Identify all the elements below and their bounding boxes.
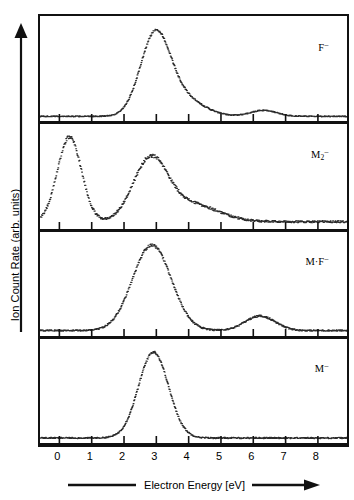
panel-f-minus-label: F− (318, 40, 329, 53)
x-tick-label: 8 (313, 450, 319, 462)
x-tick-label: 1 (87, 450, 93, 462)
x-axis-title-text: Electron Energy [eV] (138, 479, 251, 491)
panel-x-ticks (40, 436, 347, 445)
panel-m2-minus-label: M2− (311, 147, 329, 162)
x-tick-label: 4 (184, 450, 190, 462)
panel-m-minus-label: M− (315, 361, 329, 374)
plot-frame: F− M2− M·F− M− (38, 14, 349, 447)
panel-x-ticks (40, 329, 347, 338)
panel-m-minus-trace (40, 338, 347, 445)
x-axis-title: Electron Energy [eV] (38, 474, 349, 496)
panel-m2-minus-trace (40, 123, 347, 230)
panel-f-minus-trace (40, 16, 347, 123)
spectroscopy-figure: Ion Count Rate (arb. units) F− M2− M·F− … (0, 0, 354, 500)
panel-m-minus: M− (40, 338, 347, 445)
panel-x-ticks (40, 114, 347, 123)
x-tick-label: 0 (54, 450, 60, 462)
panel-x-ticks (40, 222, 347, 231)
right-arrow-icon (251, 478, 321, 492)
y-axis-label: Ion Count Rate (arb. units) (6, 150, 24, 360)
x-tick-label: 5 (216, 450, 222, 462)
x-tick-label: 2 (119, 450, 125, 462)
x-axis-tick-labels: 012345678 (38, 450, 349, 468)
y-axis-label-text: Ion Count Rate (arb. units) (9, 189, 21, 321)
x-tick-label: 6 (248, 450, 254, 462)
panel-mf-minus-trace (40, 231, 347, 338)
panel-f-minus: F− (40, 16, 347, 123)
panel-mf-minus-label: M·F− (306, 254, 329, 267)
panel-m2-minus: M2− (40, 123, 347, 230)
x-axis-left-rule (66, 479, 138, 491)
panel-mf-minus: M·F− (40, 231, 347, 338)
x-tick-label: 3 (151, 450, 157, 462)
x-tick-label: 7 (281, 450, 287, 462)
